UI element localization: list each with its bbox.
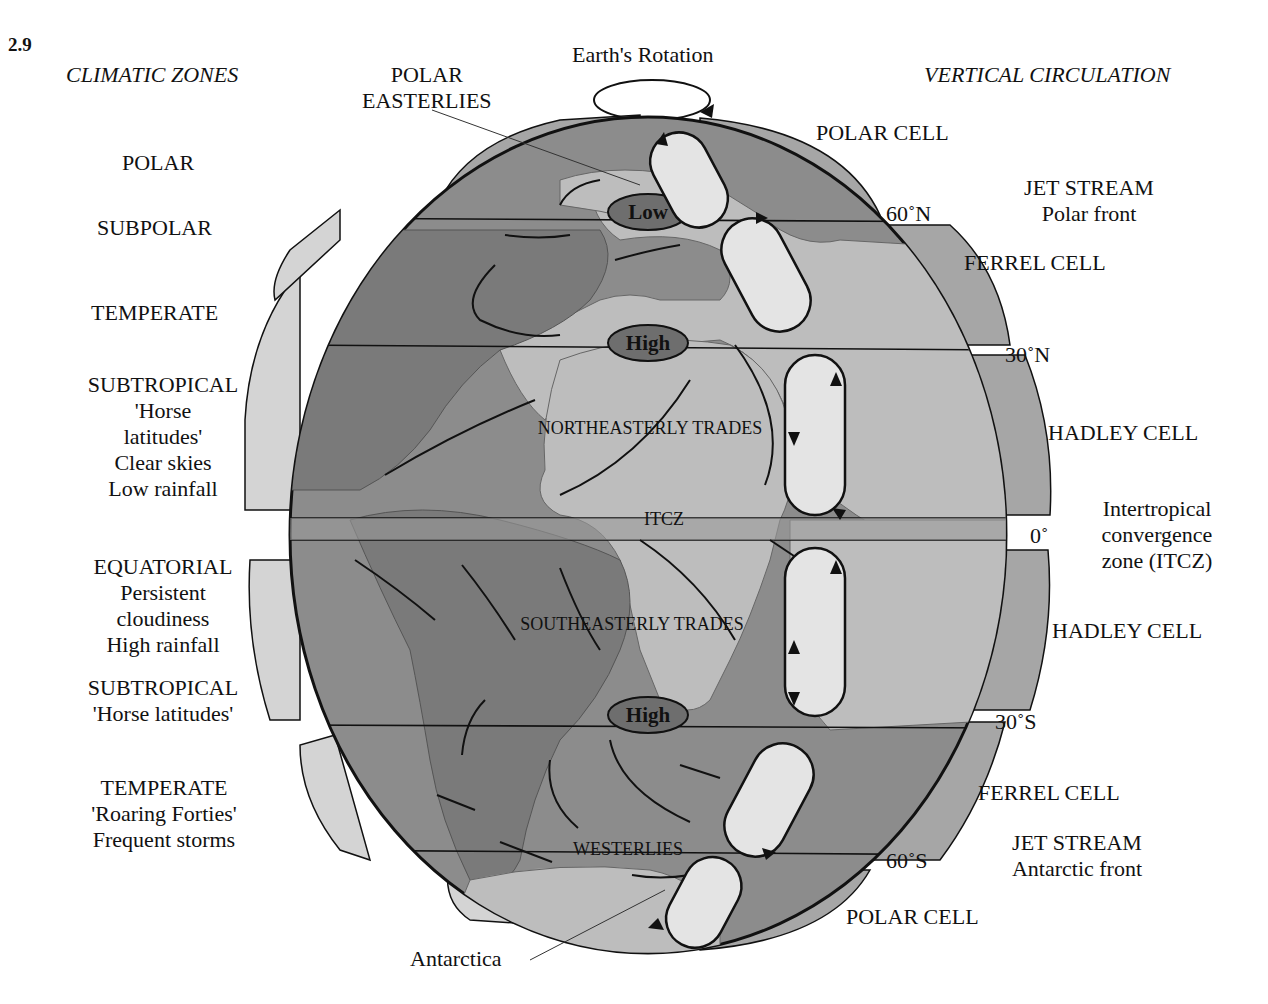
latitude-60s: 60˚S	[886, 848, 928, 874]
southeasterly-trades-label: SOUTHEASTERLY TRADES	[520, 614, 744, 634]
latitude-30n: 30˚N	[1005, 342, 1050, 368]
ferrel-cell-south-label: FERREL CELL	[978, 780, 1120, 806]
zone-subpolar: SUBPOLAR	[97, 215, 212, 241]
hadley-cell-north-label: HADLEY CELL	[1048, 420, 1198, 446]
svg-text:High: High	[626, 331, 671, 355]
latitude-equator: 0˚	[1030, 523, 1048, 549]
svg-text:Low: Low	[628, 200, 669, 224]
latitude-60n: 60˚N	[886, 201, 931, 227]
pressure-high-pill-south: High	[608, 697, 688, 733]
jet-stream-antarctic-front-label: JET STREAM Antarctic front	[1000, 830, 1154, 882]
zone-subtropical-south: SUBTROPICAL 'Horse latitudes'	[74, 675, 252, 727]
zone-temperate-south: TEMPERATE 'Roaring Forties' Frequent sto…	[80, 775, 248, 853]
polar-cell-south-label: POLAR CELL	[846, 904, 979, 930]
hadley-cell-south-label: HADLEY CELL	[1052, 618, 1202, 644]
itcz-label: ITCZ	[644, 509, 684, 529]
rotation-arrow-icon	[594, 80, 714, 120]
polar-cell-north-label: POLAR CELL	[816, 120, 949, 146]
latitude-30s: 30˚S	[995, 709, 1037, 735]
zone-temperate-north: TEMPERATE	[91, 300, 218, 326]
northeasterly-trades-label: NORTHEASTERLY TRADES	[538, 418, 763, 438]
svg-text:High: High	[626, 703, 671, 727]
zone-subtropical-north: SUBTROPICAL 'Horse latitudes' Clear skie…	[76, 372, 250, 502]
jet-stream-polar-front-label: JET STREAM Polar front	[1000, 175, 1178, 227]
zone-polar: POLAR	[122, 150, 194, 176]
pressure-high-pill-north: High	[608, 325, 688, 361]
westerlies-label: WESTERLIES	[573, 839, 683, 859]
zone-equatorial: EQUATORIAL Persistent cloudiness High ra…	[80, 554, 246, 658]
ferrel-cell-north-label: FERREL CELL	[964, 250, 1106, 276]
antarctica-label: Antarctica	[410, 946, 502, 972]
itcz-description-label: Intertropical convergence zone (ITCZ)	[1088, 496, 1226, 574]
